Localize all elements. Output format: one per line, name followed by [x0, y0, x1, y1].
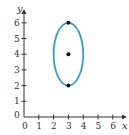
tick-marks [22, 23, 113, 120]
y-tick-label: 3 [14, 65, 20, 75]
x-axis-label: x [122, 120, 128, 131]
y-tick-label: 2 [14, 81, 20, 91]
x-tick-label: 0 [22, 121, 28, 131]
point-vertex [66, 21, 70, 25]
y-tick-label: 0 [14, 110, 20, 120]
x-tick-label: 6 [110, 121, 116, 131]
x-axis-arrow-icon [122, 115, 127, 120]
y-axis-label: y [16, 3, 23, 14]
x-tick-label: 5 [96, 121, 102, 131]
data-points [66, 21, 70, 88]
x-tick-label: 4 [81, 121, 87, 131]
point-vertex [66, 84, 70, 88]
y-tick-label: 1 [14, 96, 20, 106]
x-tick-label: 1 [36, 121, 42, 131]
x-tick-label: 3 [66, 121, 72, 131]
y-tick-label: 5 [14, 34, 20, 44]
y-tick-label: 4 [14, 49, 20, 59]
x-tick-label: 2 [51, 121, 57, 131]
y-tick-label: 6 [14, 18, 20, 28]
tick-labels: 01234560123456 [14, 18, 116, 131]
point-center [66, 52, 70, 56]
ellipse-chart: 01234560123456 x y [0, 0, 129, 135]
